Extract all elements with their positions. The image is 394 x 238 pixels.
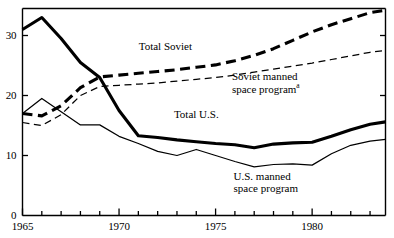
- series-label-line: Total Soviet: [139, 40, 192, 53]
- series-label-line: Total U.S.: [174, 108, 219, 121]
- x-tick-label: 1980: [290, 220, 334, 232]
- y-tick-label: 30: [0, 29, 17, 41]
- series-label-line: Soviet manned: [232, 70, 300, 83]
- x-tick-label: 1965: [1, 220, 45, 232]
- y-tick-label: 10: [0, 149, 17, 161]
- series-line-total-u-s: [23, 18, 386, 148]
- x-tick-label: 1975: [194, 220, 238, 232]
- x-tick-label: 1970: [97, 220, 141, 232]
- series-label-line: space programa: [232, 83, 300, 96]
- series-label-us-manned: U.S. mannedspace program: [234, 170, 298, 195]
- series-label-total-soviet: Total Soviet: [139, 40, 192, 53]
- series-label-soviet-manned: Soviet mannedspace programa: [232, 70, 300, 95]
- chart-figure: 01020301965197019751980 Total SovietSovi…: [0, 0, 394, 238]
- series-label-line: U.S. manned: [234, 170, 298, 183]
- chart-series: [23, 10, 386, 167]
- series-label-line: space program: [234, 182, 298, 195]
- y-tick-label: 20: [0, 89, 17, 101]
- series-label-total-us: Total U.S.: [174, 108, 219, 121]
- series-line-total-soviet: [23, 10, 386, 116]
- footnote-marker: a: [296, 81, 299, 90]
